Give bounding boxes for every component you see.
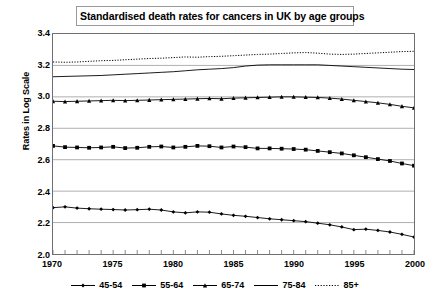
series-45-54 (53, 205, 414, 239)
y-tick-label: 2.4 (4, 187, 50, 196)
legend-label: 75-84 (282, 281, 305, 290)
legend-key-55-64 (131, 281, 157, 290)
series-75-84 (53, 65, 414, 77)
x-axis-tick-labels: 1970197519801985199019952000 (52, 259, 415, 273)
legend-key-45-54 (70, 281, 96, 290)
y-tick-label: 3.2 (4, 60, 50, 69)
series-85+ (53, 51, 414, 62)
y-tick-label: 2.2 (4, 219, 50, 228)
chart-legend: 45-5455-6465-7475-8485+ (0, 281, 429, 290)
x-tick-label: 1990 (284, 259, 304, 269)
legend-item-85+[interactable]: 85+ (314, 281, 358, 290)
legend-label: 45-54 (99, 281, 122, 290)
y-axis-tick-labels: 2.02.22.42.62.83.03.23.4 (0, 33, 50, 255)
legend-label: 65-74 (221, 281, 244, 290)
plot-svg (53, 34, 414, 254)
legend-label: 55-64 (160, 281, 183, 290)
x-tick-label: 2000 (405, 259, 425, 269)
x-tick-label: 1975 (102, 259, 122, 269)
y-tick-label: 3.4 (4, 29, 50, 38)
legend-item-75-84[interactable]: 75-84 (253, 281, 305, 290)
series-55-64 (53, 144, 414, 168)
plot-area (52, 33, 415, 255)
chart-title: Standardised death rates for cancers in … (76, 6, 354, 26)
x-tick-label: 1985 (223, 259, 243, 269)
legend-key-85+ (314, 281, 340, 290)
legend-key-65-74 (192, 281, 218, 290)
legend-item-55-64[interactable]: 55-64 (131, 281, 183, 290)
x-tick-label: 1980 (163, 259, 183, 269)
legend-item-45-54[interactable]: 45-54 (70, 281, 122, 290)
x-tick-label: 1970 (42, 259, 62, 269)
y-tick-label: 2.8 (4, 124, 50, 133)
chart-container: Standardised death rates for cancers in … (0, 0, 429, 300)
legend-key-75-84 (253, 281, 279, 290)
y-tick-label: 3.0 (4, 92, 50, 101)
x-tick-label: 1995 (344, 259, 364, 269)
legend-item-65-74[interactable]: 65-74 (192, 281, 244, 290)
y-tick-label: 2.6 (4, 155, 50, 164)
legend-label: 85+ (343, 281, 358, 290)
